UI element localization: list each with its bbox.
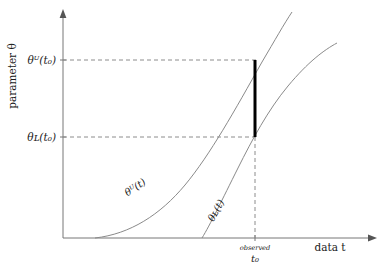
- upper-curve-label: θᵁ(t): [122, 176, 147, 198]
- y-axis-arrow-icon: [60, 9, 67, 18]
- lower-curve-label: θʟ(t): [206, 197, 227, 223]
- upper-bound-curve: [95, 12, 292, 238]
- y-tick-label-upper: θᵁ(t₀): [27, 54, 56, 66]
- y-axis-label: parameter θ: [6, 43, 18, 109]
- y-tick-label-lower: θʟ(t₀): [27, 131, 56, 143]
- x-tick-label-t0: t₀: [251, 253, 259, 264]
- x-tick-label-observed: observed: [240, 244, 270, 252]
- x-axis-arrow-icon: [368, 235, 377, 242]
- x-axis-label: data t: [314, 241, 346, 253]
- plot-canvas: parameter θ θᵁ(t₀) θʟ(t₀) observed t₀ da…: [0, 0, 386, 270]
- figure-container: parameter θ θᵁ(t₀) θʟ(t₀) observed t₀ da…: [0, 0, 386, 270]
